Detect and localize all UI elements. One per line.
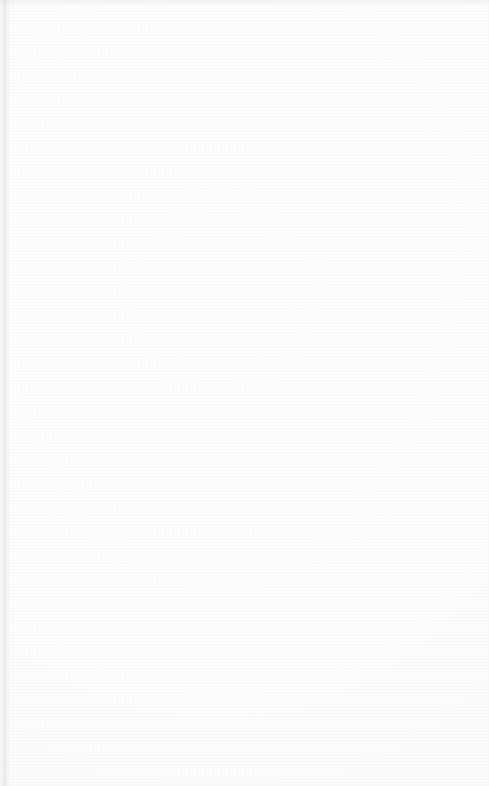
ruled-lines-layer — [0, 0, 489, 786]
scanned-page — [0, 0, 489, 786]
